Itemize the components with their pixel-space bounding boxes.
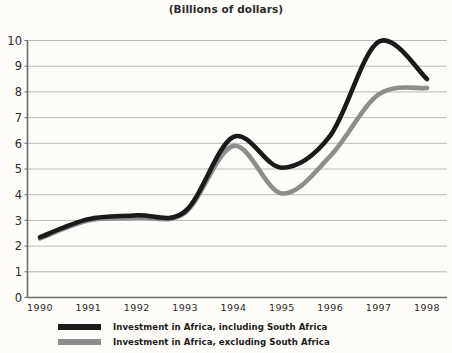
legend-swatch-excluding bbox=[58, 339, 101, 345]
x-tick-label: 1994 bbox=[221, 302, 247, 313]
y-tick-label: 2 bbox=[15, 239, 22, 253]
legend-item-excluding: Investment in Africa, excluding South Af… bbox=[58, 335, 388, 348]
legend-label-excluding: Investment in Africa, excluding South Af… bbox=[113, 337, 330, 347]
y-tick-label: 4 bbox=[15, 188, 22, 202]
x-tick-label: 1993 bbox=[172, 302, 198, 313]
series-lines-group bbox=[40, 40, 427, 238]
chart-figure: (Billions of dollars) 012345678910 19901… bbox=[0, 0, 452, 353]
y-tick-label: 6 bbox=[15, 137, 22, 151]
x-tick-label: 1998 bbox=[414, 302, 440, 313]
y-tick-label: 9 bbox=[15, 59, 22, 73]
x-tick-label: 1996 bbox=[317, 302, 343, 313]
y-tick-label: 3 bbox=[15, 214, 22, 228]
x-tick-label: 1992 bbox=[124, 302, 150, 313]
x-tick-label: 1997 bbox=[366, 302, 392, 313]
x-tick-label: 1990 bbox=[27, 302, 53, 313]
y-tick-label: 8 bbox=[15, 85, 22, 99]
x-tick-label: 1995 bbox=[269, 302, 295, 313]
y-tick-label: 10 bbox=[7, 34, 22, 48]
chart-legend: Investment in Africa, including South Af… bbox=[58, 320, 388, 350]
legend-item-including: Investment in Africa, including South Af… bbox=[58, 320, 388, 333]
y-tick-label: 5 bbox=[15, 162, 22, 176]
legend-swatch-including bbox=[58, 324, 101, 330]
x-tick-label: 1991 bbox=[75, 302, 101, 313]
series-line-including bbox=[40, 40, 427, 237]
y-tick-label: 1 bbox=[15, 265, 22, 279]
y-tick-labels-group: 012345678910 bbox=[7, 34, 22, 305]
chart-plot-area: 012345678910 199019911992199319941995199… bbox=[0, 0, 452, 353]
legend-label-including: Investment in Africa, including South Af… bbox=[113, 322, 327, 332]
x-tick-labels-group: 199019911992199319941995199619971998 bbox=[27, 302, 440, 313]
gridlines-group bbox=[28, 41, 448, 272]
y-tick-label: 0 bbox=[15, 291, 22, 305]
y-tick-label: 7 bbox=[15, 111, 22, 125]
